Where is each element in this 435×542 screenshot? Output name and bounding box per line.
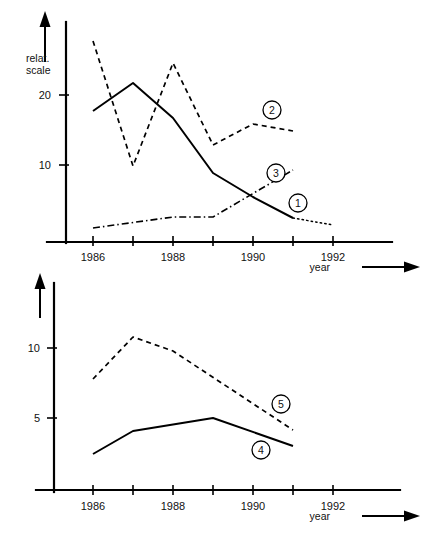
upper-y-tick-label-20: 20	[39, 89, 51, 101]
upper-series-3-tag-label: 3	[273, 167, 279, 179]
upper-series-1-extension-line	[293, 218, 333, 225]
chart-canvas: relat. scale 20 10 1986 1988 1990 1992 y…	[0, 0, 435, 542]
upper-x-tick-label-1990: 1990	[241, 251, 265, 263]
upper-y-axis-caption-line1: relat.	[26, 52, 49, 64]
right-arrow-icon	[404, 511, 420, 522]
upper-chart-panel: relat. scale 20 10 1986 1988 1990 1992 y…	[26, 11, 420, 273]
upper-y-axis	[40, 11, 67, 243]
upper-series-1-tag: 1	[289, 194, 307, 212]
lower-series-4-tag-label: 4	[258, 444, 264, 456]
upper-series-2-tag-label: 2	[269, 104, 275, 116]
upper-y-ticks	[59, 95, 69, 165]
lower-series-5-line	[93, 337, 293, 430]
lower-y-tick-label-10: 10	[28, 342, 40, 354]
lower-y-ticks	[47, 348, 57, 418]
upper-x-tick-label-1988: 1988	[161, 251, 185, 263]
upper-series-2-tag: 2	[263, 101, 281, 119]
up-arrow-icon	[40, 11, 51, 27]
upper-series-2-line	[93, 41, 293, 166]
lower-series-5-tag: 5	[272, 395, 290, 413]
right-arrow-icon	[404, 262, 420, 273]
lower-x-tick-label-1988: 1988	[161, 500, 185, 512]
upper-x-axis-name: year	[310, 261, 331, 273]
lower-x-tick-label-1990: 1990	[241, 500, 265, 512]
upper-x-tick-label-1986: 1986	[81, 251, 105, 263]
lower-y-axis	[35, 273, 55, 492]
lower-series-4-tag: 4	[252, 441, 270, 459]
up-arrow-icon	[35, 273, 46, 289]
lower-y-tick-label-5: 5	[34, 412, 40, 424]
upper-series-1-tag-label: 1	[295, 197, 301, 209]
lower-x-axis-name: year	[310, 510, 331, 522]
upper-series-3-tag: 3	[267, 164, 285, 182]
lower-chart-panel: 10 5 1986 1988 1990 1992 year 5 4	[28, 273, 420, 522]
two-panel-line-chart-figure: relat. scale 20 10 1986 1988 1990 1992 y…	[0, 0, 435, 542]
upper-series-1-line	[93, 83, 293, 218]
upper-y-tick-label-10: 10	[39, 159, 51, 171]
lower-x-tick-label-1986: 1986	[81, 500, 105, 512]
upper-series-3-line	[93, 170, 293, 228]
lower-series-5-tag-label: 5	[278, 398, 284, 410]
upper-y-axis-caption-line2: scale	[26, 64, 51, 76]
